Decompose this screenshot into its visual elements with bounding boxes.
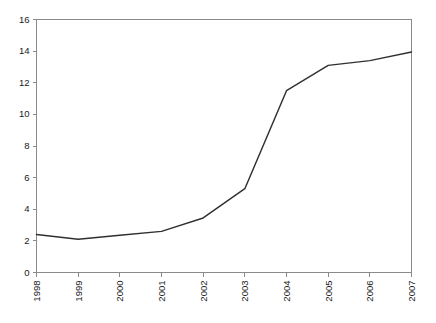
x-tick-label: 2003 xyxy=(239,281,250,302)
y-tick-label: 8 xyxy=(24,140,29,151)
x-tick-label: 2000 xyxy=(114,281,125,302)
x-tick-label: 1999 xyxy=(73,281,84,302)
y-tick-label: 12 xyxy=(19,77,30,88)
y-axis: 0246810121416 xyxy=(19,14,37,278)
x-tick-label: 2004 xyxy=(281,281,292,302)
y-tick-label: 6 xyxy=(24,172,29,183)
line-chart: 0246810121416 19981999200020012002200320… xyxy=(0,0,436,323)
data-series-group xyxy=(37,52,412,239)
x-tick-label: 1998 xyxy=(31,281,42,302)
chart-canvas: 0246810121416 19981999200020012002200320… xyxy=(0,0,436,323)
x-tick-label: 2005 xyxy=(323,281,334,302)
x-tick-label: 2001 xyxy=(156,281,167,302)
y-tick-label: 16 xyxy=(19,14,30,25)
y-tick-label: 10 xyxy=(19,108,30,119)
x-tick-label: 2007 xyxy=(406,281,417,302)
y-tick-label: 2 xyxy=(24,235,29,246)
data-line-series-0 xyxy=(37,52,412,239)
y-tick-label: 14 xyxy=(19,45,30,56)
y-tick-label: 4 xyxy=(24,203,29,214)
y-tick-label: 0 xyxy=(24,267,29,278)
x-tick-label: 2006 xyxy=(364,281,375,302)
x-tick-label: 2002 xyxy=(198,281,209,302)
